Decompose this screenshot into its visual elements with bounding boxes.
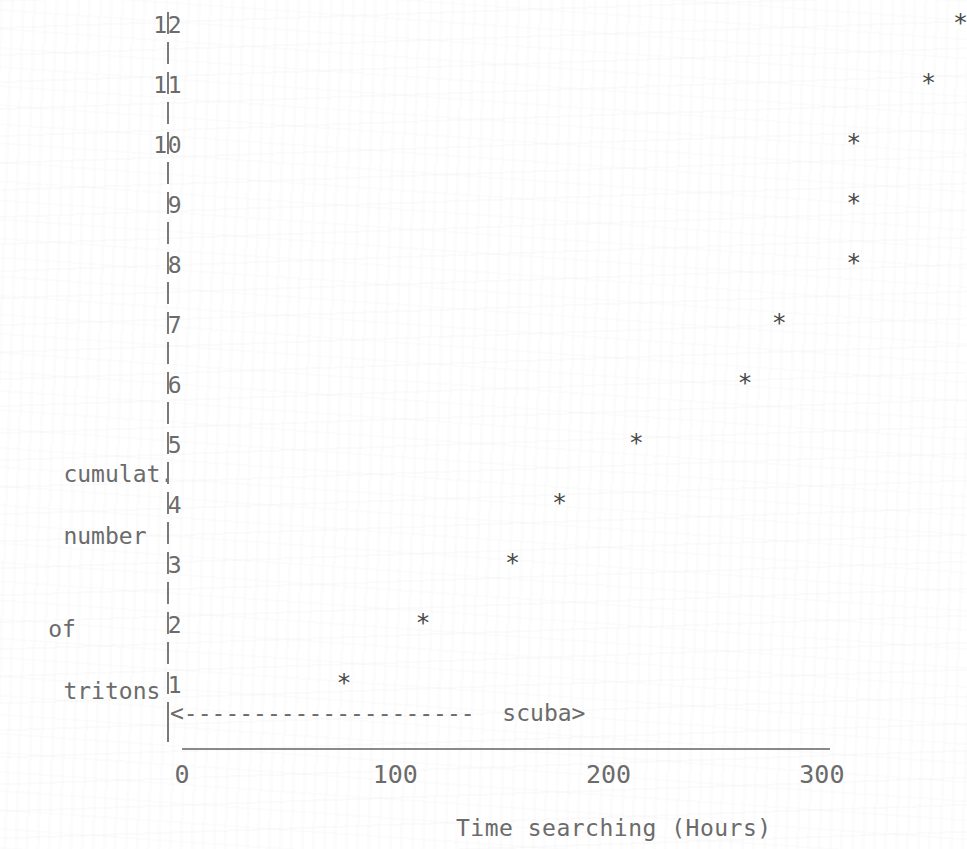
y-axis-pipe bbox=[167, 672, 169, 694]
y-axis-pipe-spacer bbox=[167, 102, 169, 124]
y-axis-title-line-2: number bbox=[63, 523, 146, 549]
y-axis-pipe bbox=[167, 12, 169, 34]
y-axis-pipe-spacer bbox=[167, 462, 169, 484]
y-axis-pipe-spacer bbox=[167, 402, 169, 424]
y-axis-pipe bbox=[167, 252, 169, 274]
scuba-arrow: <--------------------- bbox=[170, 700, 475, 726]
y-axis-pipe bbox=[167, 612, 169, 634]
y-axis-pipe bbox=[167, 552, 169, 574]
y-axis-pipe bbox=[167, 372, 169, 394]
y-axis-title-line-1: cumulat. bbox=[63, 461, 174, 487]
y-axis-pipe-base bbox=[167, 720, 169, 742]
y-axis-pipe-spacer bbox=[167, 642, 169, 664]
y-axis-pipe bbox=[167, 492, 169, 514]
scuba-spacer bbox=[475, 700, 503, 726]
y-axis-title-line-3: of bbox=[8, 614, 116, 645]
scatter-plot-figure: cumulat. number of tritons 1211109876543… bbox=[0, 0, 967, 849]
y-axis-pipe-spacer bbox=[167, 342, 169, 364]
y-axis-pipe-spacer bbox=[167, 582, 169, 604]
y-axis-pipe bbox=[167, 312, 169, 334]
y-axis-pipe-spacer bbox=[167, 162, 169, 184]
scuba-label: scuba> bbox=[502, 700, 585, 726]
y-axis-pipe-spacer bbox=[167, 42, 169, 64]
y-axis-pipe-spacer bbox=[167, 282, 169, 304]
x-axis-line bbox=[182, 748, 830, 750]
y-axis-pipe bbox=[167, 132, 169, 154]
y-axis-pipe-spacer bbox=[167, 222, 169, 244]
y-axis-title: cumulat. number of tritons bbox=[8, 428, 158, 738]
y-axis-title-line-4: tritons bbox=[63, 678, 160, 704]
y-axis-pipe-spacer bbox=[167, 522, 169, 544]
y-axis-pipe bbox=[167, 192, 169, 214]
y-axis-pipe bbox=[167, 72, 169, 94]
y-axis-pipe bbox=[167, 432, 169, 454]
